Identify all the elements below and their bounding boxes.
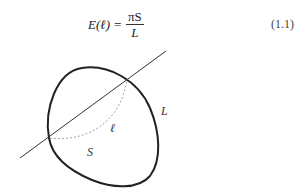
label-L: L (161, 104, 168, 119)
label-ell: ℓ (110, 121, 115, 136)
label-S: S (87, 145, 93, 160)
closed-curve (48, 67, 158, 186)
figure-diagram (0, 0, 304, 193)
